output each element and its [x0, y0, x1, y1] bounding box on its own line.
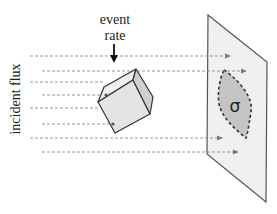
- event-rate-label-line1: event: [100, 12, 130, 27]
- event-rate-arrow: [110, 44, 118, 63]
- sigma-label: σ: [230, 96, 241, 116]
- target-cube: [98, 69, 153, 133]
- arrow-down-icon: [110, 55, 118, 63]
- event-rate-label-line2: rate: [105, 28, 126, 43]
- incident-flux-label: incident flux: [8, 63, 23, 134]
- impact-dot: [111, 122, 114, 125]
- impact-dot: [104, 93, 107, 96]
- scattering-diagram: event rate incident flux σ: [0, 0, 277, 214]
